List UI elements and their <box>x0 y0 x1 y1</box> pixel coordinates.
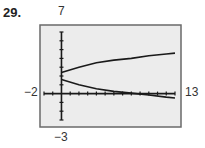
graph-window <box>0 0 205 148</box>
